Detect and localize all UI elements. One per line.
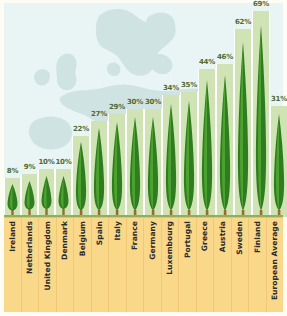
forest-coverage-chart: 8% 9% 10% 10%: [0, 0, 287, 316]
bar-column: 34%: [162, 3, 180, 217]
tree-icon: [73, 136, 89, 217]
bar-column: 27%: [90, 3, 108, 217]
category-label: Greece: [197, 218, 215, 312]
tree-icon: [22, 174, 37, 217]
bar-column: 29%: [108, 3, 126, 217]
tree-icon: [91, 121, 107, 217]
tree-icon: [56, 169, 71, 217]
category-label-text: Luxembourg: [166, 221, 174, 275]
category-label-text: Sweden: [236, 221, 244, 255]
tree-icon: [163, 95, 179, 217]
bar-column: 30%: [144, 3, 162, 217]
bar-value-label: 27%: [91, 110, 107, 118]
bar-column: 46%: [216, 3, 234, 217]
tree-icon: [253, 11, 269, 218]
tree-icon: [199, 69, 215, 217]
category-label: European Average: [267, 218, 284, 312]
bar-value-label: 69%: [253, 0, 269, 8]
tree-icon: [127, 109, 143, 217]
bar-value-label: 22%: [73, 125, 89, 133]
category-label: Belgium: [74, 218, 92, 312]
bar-column: 22%: [72, 3, 90, 217]
tree-icon: [181, 92, 197, 217]
bar-column: 8%: [4, 3, 21, 217]
category-label: Luxembourg: [162, 218, 180, 312]
bar-value-label: 10%: [55, 158, 71, 166]
category-label: Netherlands: [22, 218, 40, 312]
category-label: Italy: [109, 218, 127, 312]
bar-value-label: 35%: [181, 81, 197, 89]
category-label: Finland: [249, 218, 267, 312]
category-label: Portugal: [179, 218, 197, 312]
category-label-text: France: [131, 221, 139, 250]
category-label-text: Portugal: [184, 221, 192, 258]
category-label-panel: Ireland Netherlands United Kingdom Denma…: [4, 217, 283, 312]
bar-column: 44%: [198, 3, 216, 217]
bar-value-label: 30%: [145, 98, 161, 106]
bar-column: 62%: [234, 3, 252, 217]
category-label: Austria: [214, 218, 232, 312]
category-label: Denmark: [57, 218, 75, 312]
category-label: Spain: [92, 218, 110, 312]
tree-icon: [271, 106, 287, 217]
category-label: Sweden: [232, 218, 250, 312]
category-label: France: [127, 218, 145, 312]
category-label: United Kingdom: [39, 218, 57, 312]
bar-column: 30%: [126, 3, 144, 217]
bar-value-label: 30%: [127, 98, 143, 106]
tree-icon: [235, 29, 251, 217]
category-label-text: Greece: [201, 221, 209, 251]
category-label-text: Belgium: [79, 221, 87, 256]
category-label: Germany: [144, 218, 162, 312]
bar-column: 35%: [180, 3, 198, 217]
tree-icon: [5, 178, 20, 217]
bar-column: 9%: [21, 3, 38, 217]
category-label-text: Austria: [219, 221, 227, 252]
bar-value-label: 29%: [109, 103, 125, 111]
category-label: Ireland: [4, 218, 22, 312]
tree-icon: [217, 64, 233, 217]
bar-value-label: 9%: [24, 163, 35, 171]
category-label-text: Spain: [96, 221, 104, 245]
tree-icon: [109, 114, 125, 217]
bar-value-label: 8%: [7, 167, 18, 175]
category-label-text: Germany: [149, 221, 157, 260]
bar-value-label: 34%: [163, 84, 179, 92]
bar-column: 10%: [38, 3, 55, 217]
bar-value-label: 44%: [199, 58, 215, 66]
tree-icon: [145, 109, 161, 217]
bar-value-label: 46%: [217, 53, 233, 61]
bar-column: 31%: [270, 3, 287, 217]
bar-column: 10%: [55, 3, 72, 217]
category-label-text: European Average: [271, 221, 279, 300]
category-label-text: Ireland: [9, 221, 17, 252]
category-label-text: Denmark: [61, 221, 69, 260]
tree-icon: [39, 169, 54, 217]
bar-value-label: 62%: [235, 18, 251, 26]
category-label-text: Italy: [114, 221, 122, 240]
category-label-text: Finland: [254, 221, 262, 253]
bar-columns: 8% 9% 10% 10%: [4, 3, 283, 217]
bar-value-label: 31%: [271, 95, 287, 103]
bar-column: 69%: [252, 3, 270, 217]
bar-value-label: 10%: [38, 158, 54, 166]
category-label-text: United Kingdom: [44, 221, 52, 290]
category-label-text: Netherlands: [26, 221, 34, 274]
